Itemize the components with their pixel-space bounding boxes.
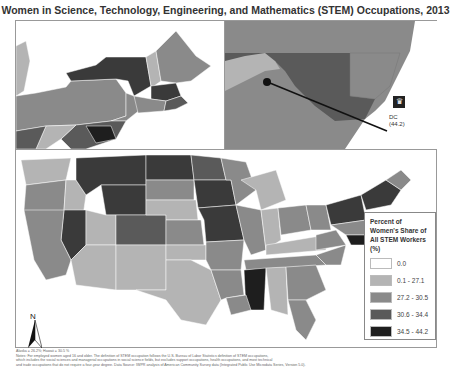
legend-swatch: [370, 309, 392, 320]
legend-label: 0.0: [397, 260, 406, 267]
north-arrow-icon: [28, 320, 42, 348]
dc-value: (44.2): [389, 121, 405, 128]
legend-swatch: [370, 275, 392, 286]
legend-item: 27.2 - 30.5: [370, 290, 430, 305]
legend-label: 0.1 - 27.1: [397, 277, 424, 284]
legend-label: 30.6 - 34.4: [397, 311, 428, 318]
notes-line: and trade occupations that do not requir…: [16, 363, 436, 368]
capital-crown-icon: ♛: [393, 96, 405, 108]
legend-item: 30.6 - 34.4: [370, 307, 430, 322]
legend-item: 0.0: [370, 256, 430, 271]
legend-swatch: [370, 292, 392, 303]
map-notes: Alaska = 26.2%; Hawaii = 30.5 % Notes: F…: [16, 349, 436, 367]
legend-label: 34.5 - 44.2: [397, 328, 428, 335]
legend-swatch: [370, 258, 392, 269]
northeast-inset-map: [16, 21, 224, 149]
legend-title: Percent of Women's Share of All STEM Wor…: [370, 217, 430, 253]
legend: Percent of Women's Share of All STEM Wor…: [364, 212, 436, 340]
legend-swatch: [370, 326, 392, 337]
dc-inset-map: [224, 21, 437, 149]
legend-item: 34.5 - 44.2: [370, 324, 430, 339]
dc-label: DC (44.2): [389, 114, 405, 128]
legend-item: 0.1 - 27.1: [370, 273, 430, 288]
legend-label: 27.2 - 30.5: [397, 294, 428, 301]
dc-name: DC: [389, 114, 405, 121]
map-title: Women in Science, Technology, Engineerin…: [0, 4, 451, 16]
